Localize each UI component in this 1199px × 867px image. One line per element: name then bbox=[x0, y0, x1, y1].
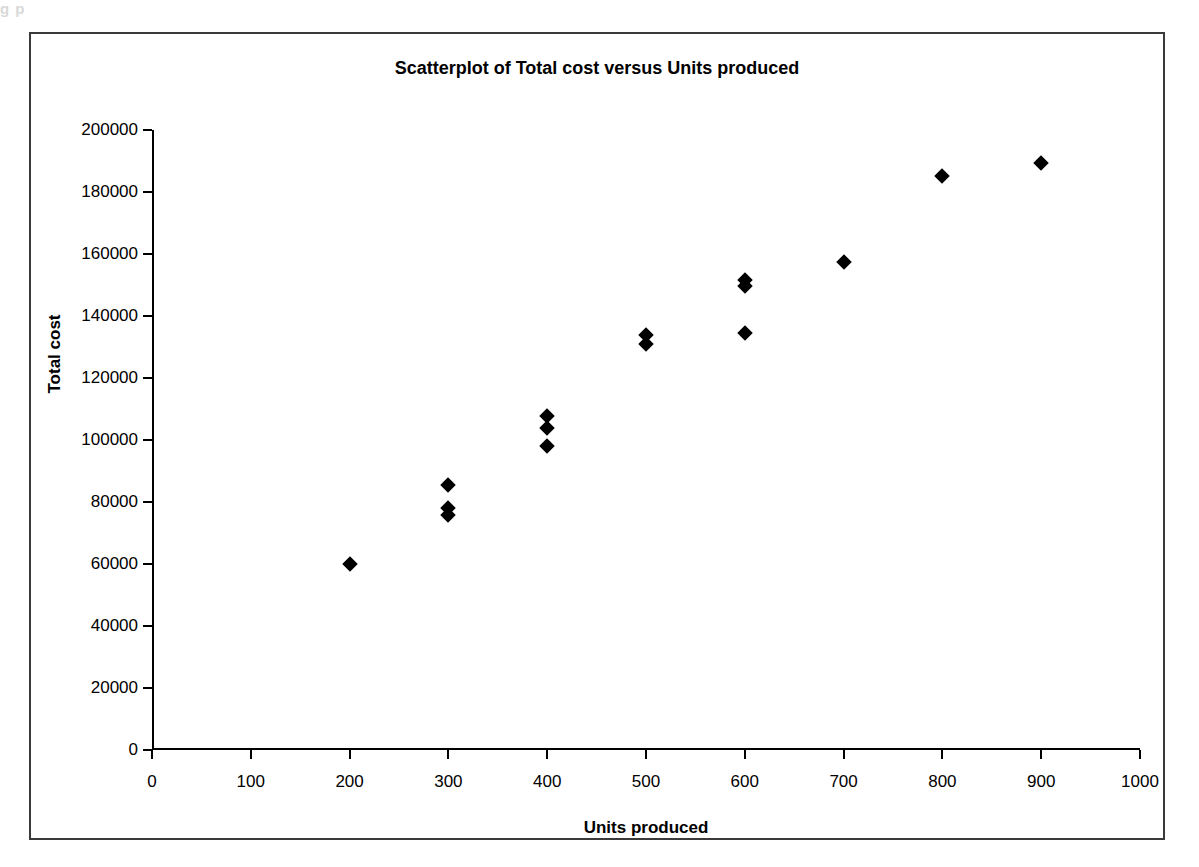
x-axis-tick-label: 800 bbox=[928, 772, 956, 792]
y-axis-tick-label: 20000 bbox=[91, 678, 138, 698]
y-axis-tick-label: 100000 bbox=[81, 430, 138, 450]
scatter-point bbox=[342, 556, 358, 572]
x-axis-tick bbox=[1040, 750, 1042, 759]
y-axis-tick-label: 180000 bbox=[81, 182, 138, 202]
x-axis-tick bbox=[1139, 750, 1141, 759]
scatter-point bbox=[935, 168, 951, 184]
x-axis-tick bbox=[843, 750, 845, 759]
x-axis-tick-label: 0 bbox=[147, 772, 156, 792]
x-axis-tick-label: 100 bbox=[237, 772, 265, 792]
y-axis-tick-label: 160000 bbox=[81, 244, 138, 264]
x-axis-tick-label: 300 bbox=[434, 772, 462, 792]
x-axis-tick-label: 400 bbox=[533, 772, 561, 792]
y-axis-tick-label: 40000 bbox=[91, 616, 138, 636]
scatter-point bbox=[638, 336, 654, 352]
x-axis-tick bbox=[546, 750, 548, 759]
x-axis-tick-label: 500 bbox=[632, 772, 660, 792]
plot-area: 0200004000060000800001000001200001400001… bbox=[152, 130, 1140, 750]
y-axis-tick bbox=[143, 563, 152, 565]
y-axis-title: Total cost bbox=[45, 274, 65, 434]
x-axis-tick-label: 700 bbox=[829, 772, 857, 792]
scatter-point bbox=[737, 325, 753, 341]
x-axis-tick-label: 600 bbox=[731, 772, 759, 792]
y-axis-tick bbox=[143, 315, 152, 317]
y-axis-tick bbox=[143, 439, 152, 441]
scatter-point bbox=[836, 254, 852, 270]
chart-figure-frame: Scatterplot of Total cost versus Units p… bbox=[29, 32, 1165, 840]
y-axis-tick-label: 60000 bbox=[91, 554, 138, 574]
scan-edge-artifact: g p bbox=[0, 0, 1199, 18]
y-axis-tick-label: 80000 bbox=[91, 492, 138, 512]
x-axis-tick bbox=[250, 750, 252, 759]
x-axis-title: Units produced bbox=[152, 818, 1140, 838]
y-axis-line bbox=[152, 130, 154, 750]
scatter-point bbox=[539, 438, 555, 454]
x-axis-tick bbox=[447, 750, 449, 759]
y-axis-tick-label: 120000 bbox=[81, 368, 138, 388]
x-axis-tick bbox=[151, 750, 153, 759]
y-axis-tick bbox=[143, 687, 152, 689]
y-axis-tick bbox=[143, 253, 152, 255]
x-axis-tick-label: 200 bbox=[335, 772, 363, 792]
x-axis-tick bbox=[645, 750, 647, 759]
x-axis-tick bbox=[349, 750, 351, 759]
y-axis-tick bbox=[143, 377, 152, 379]
chart-title: Scatterplot of Total cost versus Units p… bbox=[31, 58, 1163, 79]
y-axis-tick-label: 0 bbox=[129, 740, 138, 760]
y-axis-tick bbox=[143, 501, 152, 503]
scatter-point bbox=[539, 420, 555, 436]
x-axis-tick bbox=[744, 750, 746, 759]
y-axis-tick bbox=[143, 191, 152, 193]
y-axis-tick-label: 140000 bbox=[81, 306, 138, 326]
y-axis-tick-label: 200000 bbox=[81, 120, 138, 140]
scatter-point bbox=[441, 477, 457, 493]
x-axis-tick bbox=[941, 750, 943, 759]
scatter-point bbox=[1033, 155, 1049, 171]
y-axis-tick bbox=[143, 129, 152, 131]
y-axis-tick bbox=[143, 625, 152, 627]
x-axis-tick-label: 1000 bbox=[1121, 772, 1159, 792]
x-axis-tick-label: 900 bbox=[1027, 772, 1055, 792]
